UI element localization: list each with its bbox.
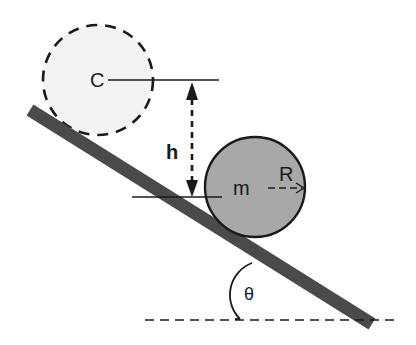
incline-diagram: C h m R θ: [0, 0, 416, 345]
height-label: h: [166, 141, 178, 163]
incline-plane: [30, 110, 372, 324]
mass-label: m: [233, 177, 250, 199]
angle-label: θ: [244, 284, 254, 304]
height-arrow: [186, 82, 198, 197]
radius-label: R: [279, 163, 293, 185]
arrow-up-icon: [186, 82, 198, 100]
center-label: C: [90, 69, 104, 91]
arrow-down-icon: [186, 180, 198, 197]
rolling-ball: [205, 137, 305, 237]
